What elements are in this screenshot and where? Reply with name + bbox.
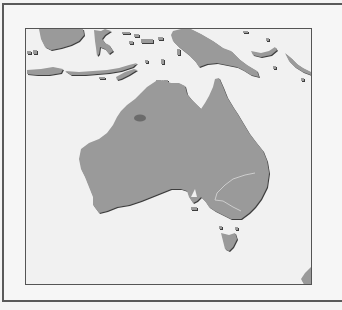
island <box>122 32 130 34</box>
island <box>161 59 164 64</box>
new-zealand-landmass <box>301 265 312 285</box>
island <box>243 31 248 33</box>
java-island-chain <box>27 67 63 75</box>
island <box>273 66 276 69</box>
borneo-landmass <box>39 29 84 50</box>
island <box>177 49 180 55</box>
island <box>145 60 148 63</box>
island <box>158 37 163 40</box>
tasmania-landmass <box>221 233 237 251</box>
solomon-islands <box>285 53 311 75</box>
island <box>27 51 31 54</box>
australia-landmass <box>79 78 269 219</box>
map-panel <box>25 28 312 285</box>
new-britain-island <box>251 47 277 57</box>
island <box>33 50 37 54</box>
island <box>191 207 197 210</box>
highlighted-region-marker[interactable] <box>134 114 146 121</box>
island <box>266 38 269 41</box>
island <box>301 78 304 81</box>
island <box>219 226 222 229</box>
map-canvas <box>26 29 312 285</box>
sulawesi-landmass <box>94 29 113 56</box>
island <box>99 77 105 79</box>
island <box>129 41 133 44</box>
island <box>235 227 238 230</box>
island <box>134 34 139 37</box>
new-guinea-landmass <box>171 29 259 77</box>
island <box>141 39 153 43</box>
